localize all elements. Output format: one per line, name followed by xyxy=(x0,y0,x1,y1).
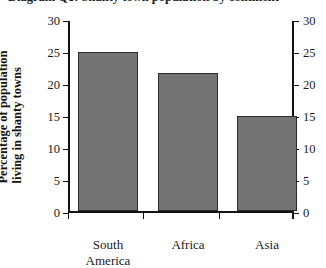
x-label-africa: Africa xyxy=(148,237,228,253)
x-tick-sep-1 xyxy=(143,213,144,219)
x-label-asia: Asia xyxy=(227,237,307,253)
bar-africa xyxy=(158,73,218,211)
y-tick-label-left-15: 15 xyxy=(48,111,61,124)
y-tick-label-left-10: 10 xyxy=(48,143,61,156)
x-tick-end xyxy=(292,213,293,219)
bar-south-america xyxy=(78,52,138,211)
y-tick-right-25 xyxy=(294,53,299,54)
y-axis-title-line1: Percentage of population xyxy=(0,50,10,183)
x-label-south-america-line2: America xyxy=(86,253,131,268)
y-tick-label-right-15: 15 xyxy=(303,111,316,124)
y-tick-label-right-25: 25 xyxy=(303,47,316,60)
plot-area: 30 30 25 25 20 20 15 15 10 10 5 5 0 0 xyxy=(68,21,294,213)
y-tick-right-0 xyxy=(294,213,299,214)
y-tick-label-left-25: 25 xyxy=(48,47,61,60)
y-axis-title-line2: living in shanty towns xyxy=(10,50,24,183)
y-tick-left-20 xyxy=(63,85,68,86)
x-tick-sep-2 xyxy=(219,213,220,219)
x-label-africa-line1: Africa xyxy=(171,237,204,252)
chart-title: Diagram Q1: Shanty town population by co… xyxy=(8,0,326,4)
x-label-south-america: South America xyxy=(68,237,148,268)
bar-asia xyxy=(237,116,297,212)
y-tick-left-5 xyxy=(63,181,68,182)
x-label-south-america-line1: South xyxy=(93,237,123,252)
x-axis-spine xyxy=(68,211,294,213)
y-tick-label-left-5: 5 xyxy=(54,175,60,188)
y-tick-label-left-30: 30 xyxy=(48,15,61,28)
y-tick-label-right-10: 10 xyxy=(303,143,316,156)
y-tick-left-10 xyxy=(63,149,68,150)
x-label-asia-line1: Asia xyxy=(255,237,279,252)
x-tick-start xyxy=(68,213,69,219)
y-tick-label-left-0: 0 xyxy=(54,207,60,220)
y-tick-left-15 xyxy=(63,117,68,118)
y-tick-label-left-20: 20 xyxy=(48,79,61,92)
y-tick-label-right-5: 5 xyxy=(303,175,309,188)
y-tick-left-30 xyxy=(63,21,68,22)
y-tick-left-25 xyxy=(63,53,68,54)
y-tick-label-right-30: 30 xyxy=(303,15,316,28)
y-tick-label-right-20: 20 xyxy=(303,79,316,92)
y-tick-right-30 xyxy=(294,21,299,22)
y-tick-label-right-0: 0 xyxy=(303,207,309,220)
y-axis-left-spine xyxy=(68,21,70,213)
y-tick-right-20 xyxy=(294,85,299,86)
